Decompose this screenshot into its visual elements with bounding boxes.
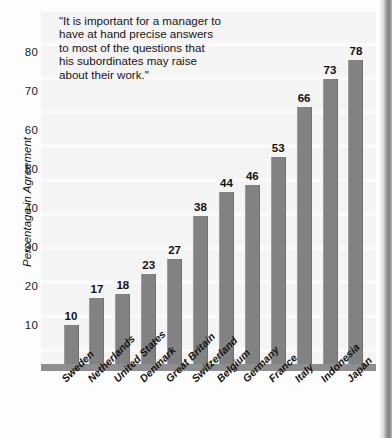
y-axis-tick-label: 10: [4, 319, 38, 331]
bar: [323, 79, 338, 364]
quote-line: to most of the questions that: [59, 41, 254, 54]
y-axis-tick-label: 80: [4, 46, 38, 58]
bar-value-label: 78: [349, 45, 362, 57]
quote-annotation: "It is important for a manager tohave at…: [59, 14, 254, 81]
bar-value-label: 10: [65, 310, 78, 322]
scan-right-edge: [380, 0, 392, 438]
quote-line: "It is important for a manager to: [59, 14, 254, 27]
bar-value-label: 27: [168, 244, 181, 256]
quote-line: have at hand precise answers: [59, 27, 254, 40]
bar: [271, 157, 286, 364]
bar-value-label: 53: [272, 142, 285, 154]
scan-top-edge: [0, 0, 392, 5]
bar: [297, 107, 312, 364]
bar-value-label: 23: [142, 259, 155, 271]
bar-value-label: 38: [194, 201, 207, 213]
bar-value-label: 17: [90, 283, 103, 295]
bar: [348, 60, 363, 364]
bar: [245, 185, 260, 364]
bar-value-label: 18: [116, 279, 129, 291]
y-axis-title: Percentage in Agreement: [21, 87, 33, 317]
bar-value-label: 46: [246, 170, 259, 182]
quote-line: about their work.": [59, 68, 254, 81]
bar-value-label: 73: [324, 64, 337, 76]
bar-value-label: 66: [298, 92, 311, 104]
chart-figure: 1020304050607080 Percentage in Agreement…: [0, 0, 392, 438]
bar-value-label: 44: [220, 177, 233, 189]
quote-line: his subordinates may raise: [59, 54, 254, 67]
